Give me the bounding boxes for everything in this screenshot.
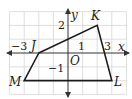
tick-label-x-3: 3 xyxy=(104,40,111,53)
y-axis-label: y xyxy=(70,8,78,22)
coordinate-plane: y x O −3 1 3 2 −1 J K L M xyxy=(0,0,132,99)
tick-label-y-2: 2 xyxy=(58,19,65,32)
tick-label-x-neg3: −3 xyxy=(11,40,27,53)
tick-label-y-neg1: −1 xyxy=(48,62,64,75)
vertex-label-k: K xyxy=(90,9,101,23)
vertex-label-m: M xyxy=(8,75,22,89)
x-axis-label: x xyxy=(118,40,125,54)
vertex-label-j: J xyxy=(28,39,37,53)
vertex-label-l: L xyxy=(113,75,122,89)
origin-label: O xyxy=(70,54,80,68)
tick-label-x-1: 1 xyxy=(78,40,85,53)
